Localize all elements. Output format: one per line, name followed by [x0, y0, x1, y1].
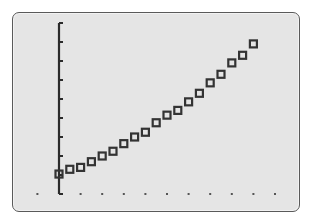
x-tick-dot: [101, 193, 103, 195]
data-point: [185, 98, 192, 105]
x-tick-dot: [144, 193, 146, 195]
x-tick-dot: [231, 193, 233, 195]
x-tick-dot: [166, 193, 168, 195]
data-point: [164, 112, 171, 119]
x-tick-dot: [274, 193, 276, 195]
x-tick-dot: [252, 193, 254, 195]
data-point: [88, 158, 95, 165]
x-axis-dot-ticks: [36, 193, 276, 195]
data-point: [110, 148, 117, 155]
data-point: [66, 166, 73, 173]
data-point: [120, 140, 127, 147]
scatter-plot: [0, 0, 312, 224]
data-point: [196, 90, 203, 97]
data-point: [239, 52, 246, 59]
data-point: [99, 153, 106, 160]
x-tick-dot: [36, 193, 38, 195]
data-points: [56, 40, 257, 177]
data-point: [218, 71, 225, 78]
data-point: [142, 129, 149, 136]
data-point: [153, 119, 160, 126]
x-tick-dot: [123, 193, 125, 195]
data-point: [174, 107, 181, 114]
data-point: [250, 40, 257, 47]
data-point: [77, 164, 84, 171]
x-tick-dot: [188, 193, 190, 195]
x-tick-dot: [209, 193, 211, 195]
x-tick-dot: [80, 193, 82, 195]
data-point: [228, 59, 235, 66]
data-point: [131, 134, 138, 141]
y-axis: [59, 23, 63, 194]
data-point: [207, 79, 214, 86]
